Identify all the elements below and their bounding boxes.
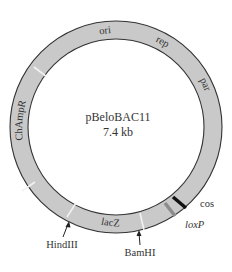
plasmid-size: 7.4 kb bbox=[103, 125, 133, 139]
bamhi-arrow-icon bbox=[137, 230, 142, 245]
segment-label-lacz: lacZ bbox=[100, 216, 120, 229]
plasmid-name: pBeloBAC11 bbox=[86, 110, 151, 124]
plasmid-map: ori rep par ChAmpR lacZ pBeloBAC11 7.4 k… bbox=[0, 0, 232, 272]
bamhi-label: BamHI bbox=[125, 247, 156, 258]
loxp-label: loxP bbox=[185, 219, 205, 230]
hindiii-arrow-icon bbox=[63, 221, 71, 237]
cos-label: cos bbox=[200, 198, 214, 209]
segment-dividers bbox=[22, 67, 144, 230]
hindiii-label: HindIII bbox=[46, 239, 78, 250]
segment-label-ori: ori bbox=[98, 24, 111, 36]
